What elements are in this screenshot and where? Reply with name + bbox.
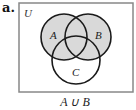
set-a-label: A <box>49 29 57 41</box>
universe-label: U <box>24 7 33 19</box>
set-b-label: B <box>95 29 102 41</box>
set-c-label: C <box>72 66 80 78</box>
caption: A ∪ B <box>0 95 136 110</box>
venn-diagram: U A B C <box>0 0 136 110</box>
